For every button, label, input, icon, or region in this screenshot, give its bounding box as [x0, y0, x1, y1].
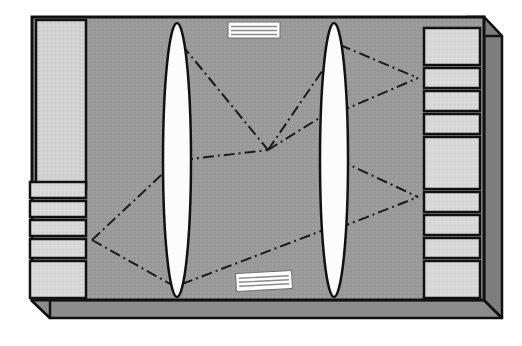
right-block-6[interactable] [424, 192, 480, 212]
right-block-3[interactable] [424, 91, 480, 111]
right-block-2[interactable] [424, 68, 480, 88]
right-bevel-face [484, 17, 502, 318]
right-block-5[interactable] [424, 137, 480, 189]
left-sidebar-rect[interactable] [36, 20, 86, 190]
bottom-bevel-face [32, 300, 502, 318]
left-block-1[interactable] [30, 182, 86, 198]
left-block-2[interactable] [30, 201, 86, 217]
left-block-3[interactable] [30, 220, 86, 236]
top-label-plate[interactable] [228, 22, 280, 38]
figure-canvas [0, 0, 522, 346]
lens-left[interactable] [163, 23, 191, 297]
bottom-label-plate[interactable] [236, 271, 293, 292]
right-block-8[interactable] [424, 238, 480, 258]
left-block-4[interactable] [30, 239, 86, 258]
lens-right[interactable] [320, 23, 348, 297]
left-sidebar-panel[interactable] [36, 20, 86, 190]
front-face-panel [32, 17, 484, 300]
right-block-9[interactable] [424, 261, 480, 298]
optical-bench-diagram [0, 0, 522, 346]
right-block-4[interactable] [424, 114, 480, 134]
left-block-5[interactable] [30, 261, 86, 298]
right-block-stack [424, 28, 480, 298]
right-block-1[interactable] [424, 28, 480, 65]
right-block-7[interactable] [424, 215, 480, 235]
